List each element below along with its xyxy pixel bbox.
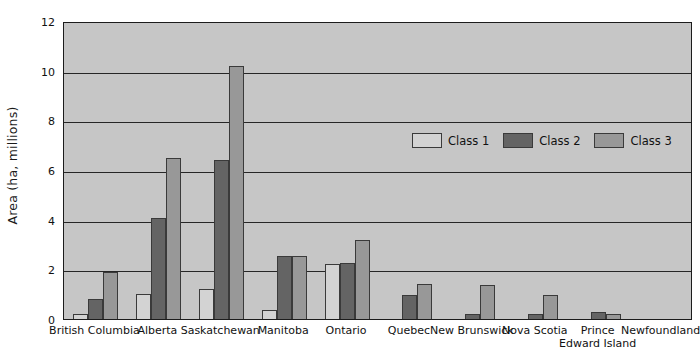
legend-swatch-icon <box>503 133 533 148</box>
bar-2 <box>591 312 606 319</box>
x-axis-tick-label: Alberta <box>137 324 177 337</box>
bar-group <box>513 23 558 319</box>
bar-3 <box>417 284 432 319</box>
bar-3 <box>229 66 244 319</box>
bar-group <box>136 23 181 319</box>
legend-label: Class 2 <box>539 134 580 148</box>
x-axis-tick-label-line: Manitoba <box>258 324 309 337</box>
bar-3 <box>103 272 118 319</box>
y-axis-title-text: Area (ha, millions) <box>6 106 21 224</box>
legend-swatch-icon <box>412 133 442 148</box>
x-axis-tick-label: Saskatchewan <box>181 324 260 337</box>
bar-group <box>73 23 118 319</box>
x-axis-tick-label-line: British Columbia <box>49 324 140 337</box>
bar-2 <box>277 256 292 319</box>
bar-2 <box>88 299 103 319</box>
legend-label: Class 3 <box>630 134 671 148</box>
legend: Class 1Class 2Class 3 <box>412 133 672 148</box>
y-axis-tick-label: 10 <box>41 65 55 78</box>
x-axis-tick-label-line: Ontario <box>326 324 367 337</box>
legend-swatch-icon <box>594 133 624 148</box>
x-axis-tick-label: Quebec <box>388 324 430 337</box>
x-axis-tick-labels: British ColumbiaAlbertaSaskatchewanManit… <box>63 324 692 360</box>
bar-3 <box>166 158 181 319</box>
y-axis-tick-label: 4 <box>48 214 55 227</box>
bar-1 <box>73 314 88 319</box>
bar-group <box>576 23 621 319</box>
bar-1 <box>325 264 340 319</box>
bar-3 <box>355 240 370 319</box>
bar-group <box>199 23 244 319</box>
x-axis-tick-label-line: Newfoundland <box>621 324 700 337</box>
x-axis-tick-label: British Columbia <box>49 324 140 337</box>
bar-2 <box>214 160 229 319</box>
bar-group <box>262 23 307 319</box>
bar-2 <box>151 218 166 319</box>
y-axis-tick-label: 12 <box>41 16 55 29</box>
y-axis-tick-label: 6 <box>48 165 55 178</box>
x-axis-tick-label-line: Alberta <box>137 324 177 337</box>
legend-item[interactable]: Class 1 <box>412 133 489 148</box>
y-axis-tick-label: 2 <box>48 264 55 277</box>
bar-1 <box>136 294 151 319</box>
bar-groups <box>64 23 691 319</box>
bar-3 <box>543 295 558 319</box>
legend-item[interactable]: Class 3 <box>594 133 671 148</box>
legend-label: Class 1 <box>448 134 489 148</box>
bar-2 <box>340 263 355 319</box>
bar-2 <box>402 295 417 319</box>
y-axis-title: Area (ha, millions) <box>0 0 26 330</box>
bar-1 <box>262 310 277 319</box>
x-axis-tick-label-line: Quebec <box>388 324 430 337</box>
bar-2 <box>465 314 480 319</box>
x-axis-tick-label-line: Edward Island <box>559 337 636 350</box>
x-axis-tick-label: Newfoundland <box>621 324 700 337</box>
x-axis-tick-label: Nova Scotia <box>502 324 568 337</box>
bar-3 <box>606 314 621 319</box>
bar-group <box>387 23 432 319</box>
y-axis-tick-label: 8 <box>48 115 55 128</box>
x-axis-tick-label-line: Nova Scotia <box>502 324 568 337</box>
bar-2 <box>528 314 543 319</box>
bar-3 <box>480 285 495 319</box>
bar-3 <box>292 256 307 319</box>
x-axis-tick-label: Manitoba <box>258 324 309 337</box>
bar-1 <box>199 289 214 319</box>
bar-group <box>325 23 370 319</box>
y-axis-tick-labels: 024681012 <box>28 0 60 360</box>
x-axis-tick-label: Ontario <box>326 324 367 337</box>
plot-area <box>63 22 692 320</box>
x-axis-tick-label-line: Saskatchewan <box>181 324 260 337</box>
bar-group <box>639 23 684 319</box>
legend-item[interactable]: Class 2 <box>503 133 580 148</box>
bar-group <box>450 23 495 319</box>
